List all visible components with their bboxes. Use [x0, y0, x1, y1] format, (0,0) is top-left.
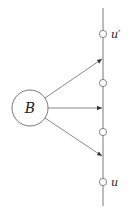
arrows	[45, 59, 102, 156]
vertex-u	[99, 178, 106, 185]
vertex-label-u-prime: u′	[111, 28, 121, 41]
vertex-u-prime	[99, 30, 106, 37]
node-label-B: B	[24, 100, 35, 116]
arrow-upper	[45, 59, 102, 98]
arrow-lower	[45, 118, 102, 156]
vertex-label-u: u	[111, 176, 118, 189]
vertex-3	[99, 128, 106, 135]
diagram-canvas: B u′ u	[0, 0, 132, 213]
vertex-2	[99, 79, 106, 86]
center-node-B: B	[12, 90, 48, 126]
